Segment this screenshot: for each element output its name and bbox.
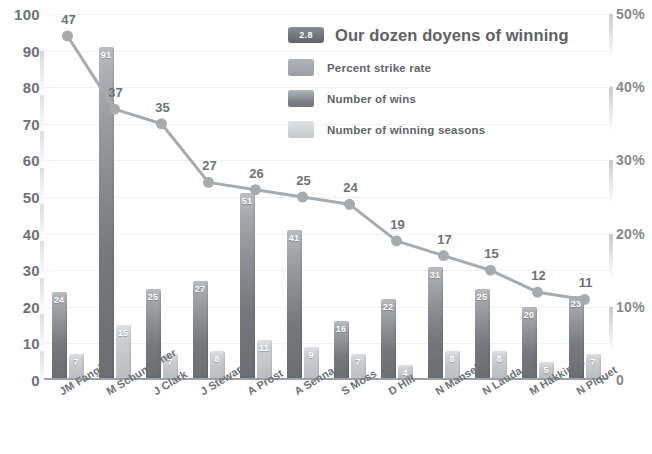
chart-legend: 2.8 Our dozen doyens of winning Percent … (288, 18, 618, 145)
legend-item-seasons[interactable]: Number of winning seasons (288, 114, 618, 145)
y-axis-tick-label: 50 (2, 189, 40, 206)
y2-axis-tick (609, 160, 613, 204)
legend-swatch-icon (288, 121, 314, 138)
line-point-label: 47 (61, 12, 75, 27)
line-point-label: 25 (296, 173, 310, 188)
line-point-label: 12 (531, 268, 545, 283)
line-marker[interactable] (532, 287, 543, 298)
chart-container: 24791152572785111419167224318258205237 4… (0, 0, 652, 454)
y-axis-tick-label: 60 (2, 152, 40, 169)
line-marker[interactable] (62, 30, 73, 41)
y-axis-tick-label: 0 (2, 372, 40, 389)
line-point-label: 17 (437, 232, 451, 247)
y2-axis-tick-label: 40% (616, 79, 652, 95)
line-point-label: 15 (484, 246, 498, 261)
y2-axis-tick-label: 30% (616, 152, 652, 168)
line-point-label: 19 (390, 217, 404, 232)
line-point-label: 27 (202, 158, 216, 173)
badge-icon: 2.8 (288, 27, 324, 43)
line-marker[interactable] (344, 199, 355, 210)
y-axis-tick-label: 40 (2, 225, 40, 242)
chart-title: Our dozen doyens of winning (335, 26, 569, 45)
y-axis-tick-label: 90 (2, 42, 40, 59)
line-marker[interactable] (438, 250, 449, 261)
y-axis-tick-label: 100 (2, 6, 40, 23)
y2-axis-tick (609, 307, 613, 351)
line-marker[interactable] (297, 192, 308, 203)
line-marker[interactable] (579, 294, 590, 305)
line-marker[interactable] (156, 118, 167, 129)
line-point-label: 35 (155, 100, 169, 115)
line-marker[interactable] (109, 104, 120, 115)
y-axis-tick (40, 51, 44, 95)
y2-axis-tick (609, 234, 613, 278)
y2-axis-tick-label: 0 (616, 372, 652, 388)
legend-label: Percent strike rate (327, 62, 431, 74)
legend-label: Number of winning seasons (327, 124, 485, 136)
y2-axis-tick-label: 10% (616, 299, 652, 315)
line-point-label: 37 (108, 85, 122, 100)
y-axis-tick-label: 10 (2, 335, 40, 352)
legend-label: Number of wins (327, 93, 416, 105)
line-point-label: 26 (249, 166, 263, 181)
line-marker[interactable] (391, 235, 402, 246)
line-point-label: 11 (579, 275, 593, 290)
line-marker[interactable] (203, 177, 214, 188)
legend-swatch-icon (288, 90, 314, 107)
legend-swatch-icon (288, 59, 314, 76)
y-axis-tick-label: 80 (2, 79, 40, 96)
legend-item-wins[interactable]: Number of wins (288, 83, 618, 114)
y-axis-tick-label: 20 (2, 298, 40, 315)
legend-title-row: 2.8 Our dozen doyens of winning (288, 18, 618, 52)
line-marker[interactable] (250, 184, 261, 195)
line-marker[interactable] (485, 265, 496, 276)
y-axis-tick-label: 70 (2, 115, 40, 132)
line-point-label: 24 (343, 180, 357, 195)
y-axis-tick-label: 30 (2, 262, 40, 279)
legend-item-strike-rate[interactable]: Percent strike rate (288, 52, 618, 83)
y2-axis-tick-label: 50% (616, 6, 652, 22)
y2-axis-tick-label: 20% (616, 226, 652, 242)
